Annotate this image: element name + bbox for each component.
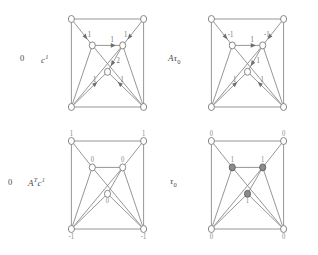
edge-labeled-5 bbox=[248, 72, 284, 107]
edge-plain-7 bbox=[211, 45, 262, 107]
edge-plain-7 bbox=[71, 45, 122, 107]
edge-label-0: -1 bbox=[228, 31, 234, 40]
graph-node-mid-left bbox=[229, 164, 235, 171]
node-label-mid-right: 1 bbox=[261, 155, 265, 164]
edge-plain-6 bbox=[92, 45, 143, 107]
graph-node-top-right-corner bbox=[281, 137, 287, 144]
edge-label-0: 1 bbox=[88, 31, 92, 40]
four-panel-graph-figure: 0c1111211Aτ0-1-111110ATc111000-1-1τ00011… bbox=[0, 0, 318, 255]
graph-top-left: 111211 bbox=[60, 8, 155, 118]
edge-labeled-4 bbox=[211, 72, 247, 107]
edge-plain-4 bbox=[71, 45, 92, 107]
graph-node-top-left-corner bbox=[68, 15, 74, 22]
graph-node-top-right-corner bbox=[281, 15, 287, 22]
panel-bottom-left-title: ATc1 bbox=[28, 176, 45, 188]
edge-label-4: 1 bbox=[233, 75, 237, 84]
graph-node-center bbox=[104, 68, 110, 75]
graph-node-top-left-corner bbox=[208, 15, 214, 22]
arrowhead-icon-3 bbox=[111, 60, 116, 66]
graph-bottom-right: 0011100 bbox=[200, 130, 295, 240]
edge-plain-7 bbox=[211, 167, 262, 229]
edge-labeled-0 bbox=[71, 141, 92, 167]
node-label-center: 0 bbox=[106, 197, 110, 206]
edge-labeled-4 bbox=[71, 194, 107, 229]
graph-node-top-left-corner bbox=[208, 137, 214, 144]
edge-plain-5 bbox=[123, 167, 144, 229]
graph-node-mid-right bbox=[120, 164, 126, 171]
panel-title-tail-superscript: 1 bbox=[42, 176, 45, 183]
arrowhead-icon-3 bbox=[251, 60, 256, 66]
edge-labeled-5 bbox=[108, 72, 144, 107]
edge-label-5: 1 bbox=[261, 75, 265, 84]
edge-label-2: 1 bbox=[250, 36, 254, 45]
node-label-top-left-corner: 1 bbox=[70, 130, 74, 138]
graph-node-top-right-corner bbox=[141, 137, 147, 144]
edge-plain-6 bbox=[232, 167, 283, 229]
node-label-mid-left: 0 bbox=[91, 155, 95, 164]
edge-labeled-4 bbox=[71, 72, 107, 107]
node-label-top-right-corner: 0 bbox=[282, 130, 286, 138]
panel-title-base: Aτ bbox=[168, 53, 177, 63]
graph-node-mid-left bbox=[89, 42, 95, 49]
edge-label-1: -1 bbox=[264, 31, 270, 40]
graph-node-bottom-left-corner bbox=[68, 225, 74, 232]
edge-label-4: 1 bbox=[93, 75, 97, 84]
edge-labeled-3 bbox=[108, 167, 123, 193]
edge-plain-5 bbox=[123, 45, 144, 107]
graph-node-mid-left bbox=[229, 42, 235, 49]
node-label-top-left-corner: 0 bbox=[210, 130, 214, 138]
graph-node-mid-right bbox=[260, 42, 266, 49]
edge-labeled-5 bbox=[108, 194, 144, 229]
edge-label-1: 1 bbox=[124, 31, 128, 40]
edge-plain-7 bbox=[71, 167, 122, 229]
graph-bottom-left: 11000-1-1 bbox=[60, 130, 155, 240]
node-label-bottom-left-corner: 0 bbox=[210, 232, 214, 240]
graph-node-bottom-right-corner bbox=[141, 103, 147, 110]
panel-bottom-left-zero-label: 0 bbox=[8, 177, 12, 187]
node-label-top-right-corner: 1 bbox=[142, 130, 146, 138]
graph-node-bottom-left-corner bbox=[208, 103, 214, 110]
edge-plain-6 bbox=[92, 167, 143, 229]
edge-labeled-5 bbox=[248, 194, 284, 229]
edge-plain-5 bbox=[263, 45, 284, 107]
edge-labeled-0 bbox=[211, 141, 232, 167]
panel-title-subscript: 0 bbox=[177, 58, 180, 65]
edge-label-5: 1 bbox=[121, 75, 125, 84]
node-label-bottom-left-corner: -1 bbox=[69, 232, 75, 240]
edge-labeled-1 bbox=[123, 141, 144, 167]
edge-label-2: 1 bbox=[110, 36, 114, 45]
node-label-bottom-right-corner: -1 bbox=[141, 232, 147, 240]
edge-labeled-3 bbox=[248, 45, 263, 71]
node-label-mid-left: 1 bbox=[231, 155, 235, 164]
graph-node-bottom-left-corner bbox=[68, 103, 74, 110]
graph-node-mid-right bbox=[120, 42, 126, 49]
graph-node-bottom-right-corner bbox=[141, 225, 147, 232]
graph-node-bottom-left-corner bbox=[208, 225, 214, 232]
panel-top-right-title: Aτ0 bbox=[168, 53, 181, 65]
edge-labeled-3 bbox=[108, 45, 123, 71]
panel-top-left-zero-label: 0 bbox=[20, 53, 24, 63]
edge-plain-5 bbox=[263, 167, 284, 229]
graph-node-center bbox=[244, 68, 250, 75]
edge-labeled-1 bbox=[263, 141, 284, 167]
graph-node-bottom-right-corner bbox=[281, 103, 287, 110]
edge-plain-6 bbox=[232, 45, 283, 107]
edge-labeled-3 bbox=[248, 167, 263, 193]
graph-node-top-right-corner bbox=[141, 15, 147, 22]
panel-title-subscript: 0 bbox=[173, 181, 176, 188]
graph-node-mid-right bbox=[260, 164, 266, 171]
edge-labeled-4 bbox=[211, 194, 247, 229]
panel-top-left-title: c1 bbox=[41, 53, 49, 65]
node-label-mid-right: 0 bbox=[121, 155, 125, 164]
graph-node-mid-left bbox=[89, 164, 95, 171]
node-label-center: 1 bbox=[246, 197, 250, 206]
graph-node-top-left-corner bbox=[68, 137, 74, 144]
edge-plain-4 bbox=[211, 45, 232, 107]
panel-title-superscript: 1 bbox=[45, 53, 48, 60]
edge-plain-4 bbox=[71, 167, 92, 229]
node-label-bottom-right-corner: 0 bbox=[282, 232, 286, 240]
graph-top-right: -1-11111 bbox=[200, 8, 295, 118]
edge-label-3: 2 bbox=[117, 57, 121, 66]
graph-node-bottom-right-corner bbox=[281, 225, 287, 232]
edge-plain-4 bbox=[211, 167, 232, 229]
